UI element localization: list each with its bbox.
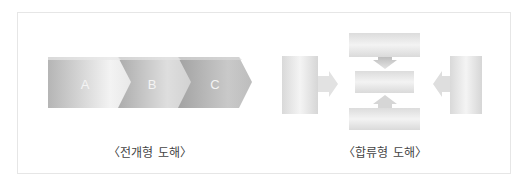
merge-box-center <box>355 71 414 93</box>
merge-box-top <box>349 33 420 57</box>
merge-box-right <box>450 56 482 114</box>
arrow-top-to-center <box>373 57 397 69</box>
arrow-right-to-center <box>433 71 450 97</box>
diagram-canvas <box>0 0 532 186</box>
merge-diagram-caption: 〈합류형 도해〉 <box>343 143 427 160</box>
chevron-a-label: A <box>81 77 90 92</box>
arrow-bottom-to-center <box>373 95 397 108</box>
arrow-left-to-center <box>318 71 338 97</box>
chevron-b-label: B <box>148 77 157 92</box>
chevron-c-label: C <box>210 77 219 92</box>
merge-box-left <box>282 56 318 114</box>
development-diagram-caption: 〈전개형 도해〉 <box>108 143 192 160</box>
merge-box-bottom <box>349 108 420 130</box>
